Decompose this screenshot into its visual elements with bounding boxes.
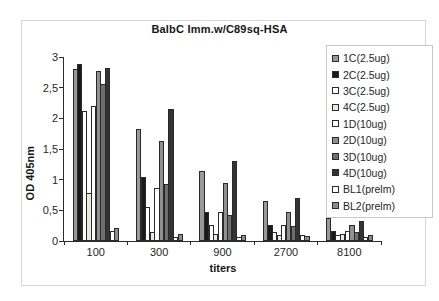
bar-bl2-prelm--2700	[304, 236, 309, 241]
x-tick-mark	[254, 242, 255, 245]
legend-entry: 1D(10ug)	[332, 116, 428, 132]
x-axis-line	[63, 241, 382, 242]
legend-label: 4C(2.5ug)	[343, 101, 390, 113]
y-tick-label: 3	[18, 52, 58, 62]
bar-bl2-prelm--900	[241, 235, 246, 241]
legend-swatch-icon	[332, 55, 339, 62]
x-tick-mark	[381, 242, 382, 245]
legend-label: 3D(10ug)	[343, 151, 387, 163]
bar-bl2-prelm--300	[178, 234, 183, 241]
legend-swatch-icon	[332, 120, 339, 127]
bar-4d-10ug--300	[168, 109, 173, 241]
legend-swatch-icon	[332, 202, 339, 209]
x-category-label: 2700	[254, 246, 317, 258]
y-axis-line	[63, 57, 64, 242]
legend-entry: BL2(prelm)	[332, 198, 428, 214]
x-tick-mark	[317, 242, 318, 245]
legend-label: BL1(prelm)	[343, 183, 395, 195]
x-tick-mark	[190, 242, 191, 245]
legend-swatch-icon	[332, 87, 339, 94]
legend-swatch-icon	[332, 169, 339, 176]
legend-entry: BL1(prelm)	[332, 181, 428, 197]
x-category-label: 300	[127, 246, 190, 258]
x-tick-mark	[127, 242, 128, 245]
bar-bl2-prelm--100	[114, 228, 119, 241]
y-tick-label: 1	[18, 175, 58, 185]
legend-entry: 4D(10ug)	[332, 165, 428, 181]
legend-swatch-icon	[332, 71, 339, 78]
legend-entry: 1C(2.5ug)	[332, 50, 428, 66]
x-tick-mark	[64, 242, 65, 245]
x-category-label: 900	[191, 246, 254, 258]
legend-entry: 3D(10ug)	[332, 148, 428, 164]
x-axis-title: titers	[64, 262, 382, 274]
y-tick-label: 2,5	[18, 83, 58, 93]
y-tick-label: 1,5	[18, 144, 58, 154]
x-category-label: 100	[64, 246, 127, 258]
chart-figure: BalbC Imm.w/C89sq-HSA OD 405nm 00,511,52…	[0, 0, 439, 301]
legend-entry: 4C(2.5ug)	[332, 99, 428, 115]
legend-label: 1C(2.5ug)	[343, 52, 390, 64]
legend-swatch-icon	[332, 153, 339, 160]
legend-swatch-icon	[332, 137, 339, 144]
y-axis-title-text: OD 405nm	[24, 146, 36, 200]
y-tick-label: 0	[18, 236, 58, 246]
legend-swatch-icon	[332, 186, 339, 193]
legend-label: BL2(prelm)	[343, 200, 395, 212]
legend: 1C(2.5ug)2C(2.5ug)3C(2.5ug)4C(2.5ug)1D(1…	[326, 45, 433, 218]
chart-title: BalbC Imm.w/C89sq-HSA	[0, 23, 439, 35]
y-tick-label: 0,5	[18, 205, 58, 215]
y-tick-label: 2	[18, 113, 58, 123]
x-category-label: 8100	[318, 246, 381, 258]
legend-label: 4D(10ug)	[343, 167, 387, 179]
legend-label: 1D(10ug)	[343, 118, 387, 130]
legend-label: 3C(2.5ug)	[343, 85, 390, 97]
legend-entry: 2C(2.5ug)	[332, 66, 428, 82]
bar-bl2-prelm--8100	[368, 235, 373, 241]
legend-label: 2C(2.5ug)	[343, 69, 390, 81]
bar-4d-10ug--900	[232, 161, 237, 241]
legend-swatch-icon	[332, 104, 339, 111]
legend-entry: 3C(2.5ug)	[332, 83, 428, 99]
bar-4d-10ug--100	[105, 68, 110, 241]
legend-entry: 2D(10ug)	[332, 132, 428, 148]
legend-label: 2D(10ug)	[343, 134, 387, 146]
